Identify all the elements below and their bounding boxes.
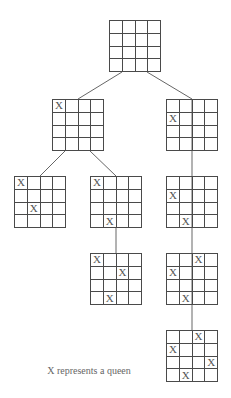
tree-edge-n1-left-to-n2-left-left bbox=[40, 151, 65, 176]
board-cell bbox=[193, 215, 206, 228]
board-cell bbox=[167, 126, 180, 139]
tree-edge-root-to-n1-left bbox=[78, 72, 122, 99]
queen-marker: X bbox=[169, 113, 177, 124]
queen-marker: X bbox=[118, 267, 126, 278]
board-n1-left: X bbox=[52, 99, 104, 151]
queen-marker: X bbox=[17, 177, 25, 188]
queen-marker: X bbox=[194, 254, 202, 265]
board-cell bbox=[110, 34, 123, 47]
board-cell bbox=[205, 215, 218, 228]
board-cell bbox=[205, 254, 218, 267]
queen-cell: X bbox=[117, 267, 130, 280]
queen-marker: X bbox=[182, 293, 190, 304]
queen-marker: X bbox=[169, 190, 177, 201]
board-cell bbox=[117, 203, 130, 216]
board-cell bbox=[28, 215, 41, 228]
board-cell bbox=[117, 177, 130, 190]
board-cell bbox=[205, 267, 218, 280]
board-cell bbox=[91, 113, 104, 126]
board-cell bbox=[167, 215, 180, 228]
board-cell bbox=[66, 126, 79, 139]
queen-cell: X bbox=[91, 254, 104, 267]
board-cell bbox=[167, 292, 180, 305]
board-cell bbox=[104, 177, 117, 190]
board-cell bbox=[79, 113, 92, 126]
board-cell bbox=[53, 138, 66, 151]
board-cell bbox=[66, 138, 79, 151]
board-cell bbox=[79, 126, 92, 139]
board-n3-right: XXX bbox=[166, 253, 218, 305]
board-cell bbox=[167, 280, 180, 293]
board-cell bbox=[129, 203, 142, 216]
board-cell bbox=[167, 100, 180, 113]
board-cell bbox=[79, 100, 92, 113]
board-cell bbox=[28, 177, 41, 190]
board-cell bbox=[91, 292, 104, 305]
search-tree-diagram: XXXXXXXXXXXXXXXXXX X represents a queen bbox=[0, 0, 231, 398]
board-cell bbox=[66, 113, 79, 126]
board-cell bbox=[180, 357, 193, 370]
board-cell bbox=[123, 21, 136, 34]
board-cell bbox=[53, 215, 66, 228]
board-cell bbox=[110, 59, 123, 72]
board-cell bbox=[41, 177, 54, 190]
board-cell bbox=[136, 34, 149, 47]
board-cell bbox=[53, 190, 66, 203]
queen-cell: X bbox=[104, 292, 117, 305]
queen-marker: X bbox=[194, 331, 202, 342]
board-cell bbox=[180, 113, 193, 126]
board-cell bbox=[53, 203, 66, 216]
board-cell bbox=[205, 203, 218, 216]
board-cell bbox=[180, 190, 193, 203]
board-cell bbox=[53, 177, 66, 190]
board-cell bbox=[205, 190, 218, 203]
board-cell bbox=[136, 21, 149, 34]
board-cell bbox=[193, 344, 206, 357]
board-cell bbox=[167, 177, 180, 190]
board-cell bbox=[15, 190, 28, 203]
board-root bbox=[109, 20, 161, 72]
board-cell bbox=[129, 190, 142, 203]
board-cell bbox=[193, 267, 206, 280]
board-cell bbox=[79, 138, 92, 151]
board-n2-right: XX bbox=[166, 176, 218, 228]
board-cell bbox=[123, 47, 136, 60]
queen-cell: X bbox=[167, 267, 180, 280]
board-cell bbox=[91, 215, 104, 228]
legend-caption: X represents a queen bbox=[0, 365, 178, 376]
board-cell bbox=[148, 47, 161, 60]
board-cell bbox=[104, 203, 117, 216]
queen-cell: X bbox=[15, 177, 28, 190]
board-n3-left: XXX bbox=[90, 253, 142, 305]
board-cell bbox=[110, 47, 123, 60]
board-cell bbox=[91, 100, 104, 113]
board-cell bbox=[15, 203, 28, 216]
board-cell bbox=[205, 344, 218, 357]
board-cell bbox=[129, 292, 142, 305]
board-cell bbox=[91, 126, 104, 139]
board-cell bbox=[104, 190, 117, 203]
board-n2-left-right: XX bbox=[90, 176, 142, 228]
board-cell bbox=[148, 34, 161, 47]
board-cell bbox=[167, 331, 180, 344]
queen-marker: X bbox=[182, 370, 190, 381]
board-cell bbox=[110, 21, 123, 34]
queen-marker: X bbox=[30, 203, 38, 214]
board-cell bbox=[117, 254, 130, 267]
board-cell bbox=[104, 254, 117, 267]
board-cell bbox=[41, 215, 54, 228]
board-cell bbox=[129, 177, 142, 190]
board-cell bbox=[205, 177, 218, 190]
board-cell bbox=[91, 190, 104, 203]
queen-marker: X bbox=[182, 216, 190, 227]
board-cell bbox=[129, 280, 142, 293]
board-cell bbox=[15, 215, 28, 228]
queen-marker: X bbox=[207, 357, 215, 368]
board-cell bbox=[180, 254, 193, 267]
board-cell bbox=[53, 126, 66, 139]
queen-cell: X bbox=[167, 190, 180, 203]
board-cell bbox=[193, 126, 206, 139]
board-cell bbox=[180, 331, 193, 344]
board-cell bbox=[53, 113, 66, 126]
queen-marker: X bbox=[169, 267, 177, 278]
